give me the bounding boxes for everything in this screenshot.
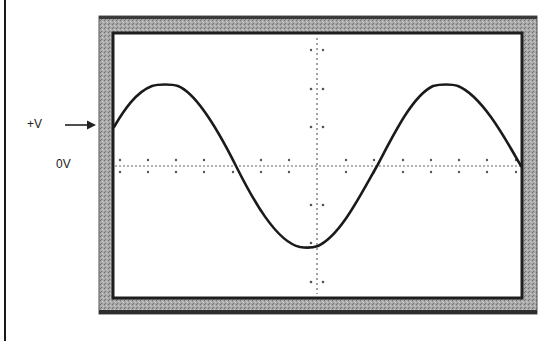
oscilloscope-diagram bbox=[0, 0, 560, 341]
scope-bezel bbox=[99, 16, 537, 314]
arrow-icon bbox=[65, 121, 96, 130]
